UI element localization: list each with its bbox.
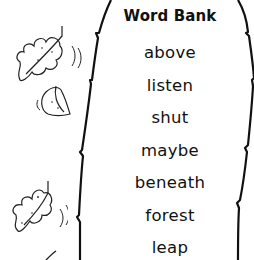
oak-leaf-icon [8, 175, 68, 235]
oak-leaf-icon [12, 20, 82, 85]
word-item: above [95, 37, 245, 70]
round-leaf-icon [34, 80, 74, 120]
word-item: listen [95, 70, 245, 103]
word-item: maybe [95, 135, 245, 168]
word-item: beneath [95, 167, 245, 200]
word-item: leap [95, 232, 245, 260]
word-item: shut [95, 102, 245, 135]
word-bank-title: Word Bank [95, 7, 245, 25]
leaf-stem-icon [44, 250, 58, 260]
word-item: forest [95, 200, 245, 233]
word-bank: Word Bank above listen shut maybe beneat… [95, 0, 245, 260]
word-list: above listen shut maybe beneath forest l… [95, 37, 245, 260]
